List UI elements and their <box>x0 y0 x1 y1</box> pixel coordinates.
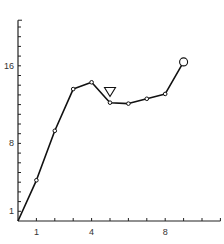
data-point-marker <box>127 102 131 106</box>
axes: 1816 148 <box>4 20 220 237</box>
series-line <box>18 62 184 221</box>
data-series <box>18 58 188 221</box>
line-chart: 1816 148 <box>0 0 224 244</box>
endpoint-marker <box>180 58 188 66</box>
annotations <box>105 87 116 96</box>
y-tick-label: 1 <box>9 206 14 216</box>
x-tick-label: 1 <box>34 227 39 237</box>
data-point-marker <box>145 97 149 101</box>
data-point-marker <box>108 101 112 105</box>
data-point-marker <box>35 178 39 182</box>
y-tick-label: 16 <box>4 61 14 71</box>
data-point-marker <box>90 80 94 84</box>
y-tick-label: 8 <box>9 138 14 148</box>
x-tick-label: 4 <box>89 227 94 237</box>
data-point-marker <box>53 129 57 133</box>
x-tick-labels: 148 <box>34 227 168 237</box>
data-point-marker <box>163 92 167 96</box>
data-point-marker <box>71 87 75 91</box>
triangle-marker-icon <box>105 87 116 96</box>
y-tick-labels: 1816 <box>4 61 14 217</box>
x-tick-label: 8 <box>163 227 168 237</box>
